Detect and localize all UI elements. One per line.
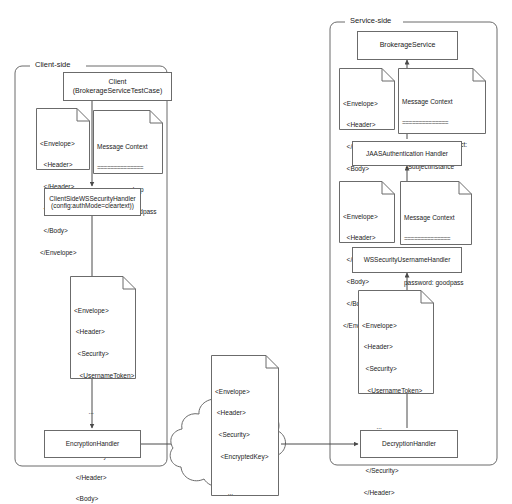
service-side-group-label: Service-side	[347, 16, 394, 25]
envelope-line: </Body>	[40, 227, 86, 234]
note-service-message-context-creds: Message Context ============== username:…	[400, 181, 472, 245]
message-context-separator: ==============	[402, 119, 482, 126]
note-client-message-context: Message Context ============== username:…	[93, 110, 163, 174]
node-client-line1: Client	[109, 78, 127, 86]
note-service-envelope-plain-2: <Envelope> <Header> </Header> <Body> </B…	[339, 181, 395, 243]
envelope-line: <Security>	[74, 350, 132, 357]
envelope-line: </Security>	[362, 467, 430, 474]
note-service-envelope-plain: <Envelope> <Header> </Header> <Body> </B…	[339, 68, 395, 130]
envelope-line: ...	[74, 408, 132, 415]
envelope-line: <Body>	[74, 495, 132, 502]
envelope-line: <Header>	[40, 161, 86, 168]
envelope-line: <Envelope>	[343, 100, 391, 107]
node-jaas-authentication-handler-label: JAASAuthentication Handler	[366, 150, 448, 157]
node-encryption-handler[interactable]: EncryptionHandler	[44, 430, 141, 458]
node-client[interactable]: Client (BrokerageServiceTestCase)	[63, 72, 172, 101]
message-context-title: Message Context	[402, 98, 482, 105]
envelope-line: <Body>	[343, 278, 391, 285]
node-decryption-handler[interactable]: DecryptionHandler	[360, 430, 458, 458]
envelope-line: <UsernameToken>	[74, 372, 132, 379]
message-context-separator: ==============	[404, 235, 468, 242]
message-context-title: Message Context	[97, 143, 159, 150]
envelope-line: <Security>	[215, 431, 275, 438]
envelope-line: <Envelope>	[40, 140, 86, 147]
envelope-line: <Security>	[362, 365, 430, 372]
node-jaas-authentication-handler[interactable]: JAASAuthentication Handler	[352, 141, 462, 166]
envelope-line: <UsernameToken>	[362, 387, 430, 394]
envelope-line: <Header>	[343, 234, 391, 241]
node-brokerage-service-label: BrokerageService	[380, 41, 436, 49]
node-clientside-wssecurity-handler-line2: (config:authMode=cleartext))	[51, 202, 134, 209]
note-wire-envelope-encrypted: <Envelope> <Header> <Security> <Encrypte…	[211, 355, 279, 496]
note-client-envelope-plain: <Envelope> <Header> </Header> <Body> </B…	[36, 108, 90, 170]
note-service-message-context-auth: Message Context ============== authentic…	[398, 68, 486, 134]
envelope-line: <Envelope>	[215, 388, 275, 395]
node-wssecurity-username-handler-label: WSSecurityUsernameHandler	[364, 256, 451, 263]
node-client-line2: (BrokerageServiceTestCase)	[73, 87, 162, 95]
node-decryption-handler-label: DecryptionHandler	[382, 440, 436, 447]
node-brokerage-service[interactable]: BrokerageService	[357, 31, 458, 60]
node-clientside-wssecurity-handler-line1: ClientSideWSSecurityHandler	[49, 195, 135, 202]
node-wssecurity-username-handler[interactable]: WSSecurityUsernameHandler	[352, 247, 462, 273]
envelope-line: </Envelope>	[40, 249, 86, 256]
envelope-line: <Header>	[74, 328, 132, 335]
envelope-line: </Header>	[74, 474, 132, 481]
diagram-canvas: Client-side Service-side Client (Brokera…	[0, 0, 512, 504]
envelope-line: <Header>	[215, 409, 275, 416]
envelope-line: <Body>	[343, 165, 391, 172]
envelope-line: <Envelope>	[74, 307, 132, 314]
envelope-line: <Envelope>	[362, 322, 430, 329]
envelope-line: </Header>	[362, 489, 430, 496]
envelope-line: <Header>	[343, 121, 391, 128]
client-side-group-label: Client-side	[32, 60, 73, 69]
message-context-title: Message Context	[404, 214, 468, 221]
envelope-line: <EncryptedKey>	[215, 453, 275, 460]
message-context-separator: ==============	[97, 164, 159, 171]
note-service-envelope-signed: <Envelope> <Header> <Security> <Username…	[358, 290, 434, 394]
node-clientside-wssecurity-handler[interactable]: ClientSideWSSecurityHandler (config:auth…	[44, 188, 141, 216]
envelope-line: <Header>	[362, 343, 430, 350]
note-client-envelope-signed: <Envelope> <Header> <Security> <Username…	[70, 276, 136, 379]
message-context-line: password: goodpass	[404, 279, 468, 286]
envelope-line: <Envelope>	[343, 213, 391, 220]
envelope-line: ...	[215, 489, 275, 496]
node-encryption-handler-label: EncryptionHandler	[66, 440, 119, 447]
